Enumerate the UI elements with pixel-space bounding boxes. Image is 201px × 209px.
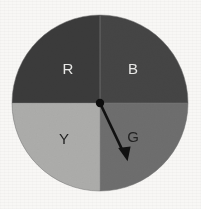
sector-y-label: Y: [59, 130, 69, 147]
pointer-pivot-hub[interactable]: [96, 99, 104, 107]
sector-g-label: G: [127, 128, 139, 145]
sector-g-wedge[interactable]: [100, 103, 188, 191]
spinner-wheel[interactable]: R B Y G: [0, 0, 201, 209]
sector-r-label: R: [63, 60, 74, 77]
sector-y-wedge[interactable]: [12, 103, 100, 191]
sector-b-label: B: [128, 60, 138, 77]
sector-r-wedge[interactable]: [12, 15, 100, 103]
sector-b-wedge[interactable]: [100, 15, 188, 103]
figure-canvas: R B Y G: [0, 0, 201, 209]
